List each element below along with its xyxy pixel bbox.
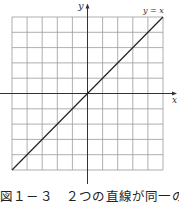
figure-caption: 図１－３ ２つの直線が同一の場合 [0,186,179,205]
coordinate-plane [0,0,179,186]
x-axis-label: x [172,95,177,105]
y-axis-label: y [78,0,84,11]
line-label: y = x [143,6,164,15]
y-axis-arrow-icon [86,4,90,9]
